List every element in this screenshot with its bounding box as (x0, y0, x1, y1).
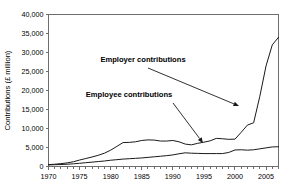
x-tick-label: 2000 (227, 172, 243, 181)
y-axis: 05,00010,00015,00020,00025,00030,00035,0… (22, 10, 49, 171)
y-tick-label: 15,000 (22, 105, 44, 114)
x-tick-label: 1990 (165, 172, 181, 181)
y-tick-label: 35,000 (22, 29, 44, 38)
y-tick-label: 20,000 (22, 86, 44, 95)
y-tick-label: 5,000 (26, 143, 44, 152)
x-tick-label: 1975 (72, 172, 88, 181)
chart-container: 05,00010,00015,00020,00025,00030,00035,0… (0, 0, 288, 189)
y-tick-label: 40,000 (22, 10, 44, 19)
y-tick-label: 0 (40, 162, 44, 171)
contributions-line-chart: 05,00010,00015,00020,00025,00030,00035,0… (0, 0, 288, 189)
x-axis: 19701975198019851990199520002005 (41, 167, 279, 181)
x-tick-label: 1980 (103, 172, 119, 181)
y-tick-label: 25,000 (22, 67, 44, 76)
y-tick-label: 30,000 (22, 48, 44, 57)
x-tick-label: 1985 (134, 172, 150, 181)
series-annotation-label: Employer contributions (100, 55, 185, 64)
y-axis-title: Contributions (£ million) (3, 50, 12, 130)
x-tick-label: 2005 (258, 172, 274, 181)
series-annotation-label: Employee contributions (86, 90, 173, 99)
y-tick-label: 10,000 (22, 124, 44, 133)
x-tick-label: 1970 (41, 172, 57, 181)
x-tick-label: 1995 (196, 172, 212, 181)
